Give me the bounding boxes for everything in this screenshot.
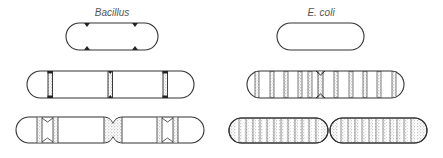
ecoli-stage-1-cell (277, 23, 364, 50)
ecoli-stage-2-cell (247, 71, 404, 98)
bacillus-stage-2-cell (27, 71, 194, 98)
bacillus-stage-3-cell (16, 117, 204, 143)
diagram-canvas (0, 0, 443, 158)
ecoli-stage-3-cell (229, 118, 427, 143)
bacillus-stage-1-cell (66, 23, 158, 50)
